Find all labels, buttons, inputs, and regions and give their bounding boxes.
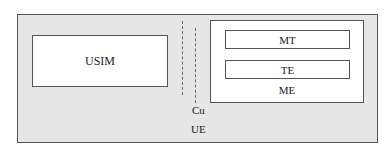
- interface-dashed-line-right: [195, 28, 196, 103]
- me-box: MT TE ME: [210, 20, 364, 103]
- usim-box: USIM: [32, 35, 168, 87]
- usim-label: USIM: [85, 54, 115, 69]
- ue-label: UE: [191, 123, 206, 135]
- te-label: TE: [281, 64, 294, 76]
- mt-box: MT: [225, 30, 350, 49]
- me-label: ME: [211, 84, 363, 96]
- cu-interface-label: Cu: [192, 104, 205, 116]
- te-box: TE: [225, 60, 350, 79]
- mt-label: MT: [279, 34, 296, 46]
- interface-dashed-line-left: [182, 21, 183, 95]
